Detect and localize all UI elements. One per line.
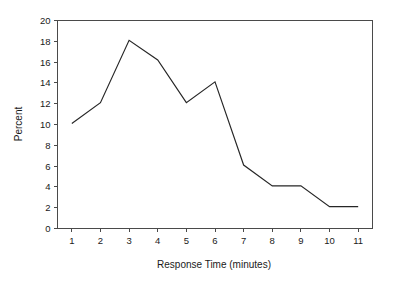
x-tick-label: 7 [241, 235, 246, 246]
y-tick-label: 18 [40, 36, 51, 47]
x-tick-label: 3 [126, 235, 131, 246]
x-tick-label: 1 [69, 235, 74, 246]
x-tick-label: 8 [270, 235, 275, 246]
y-tick-label: 12 [40, 98, 51, 109]
x-tick-label: 10 [324, 235, 335, 246]
y-tick-label: 14 [40, 77, 51, 88]
y-tick-label: 2 [45, 202, 50, 213]
chart-canvas: 02468101214161820 1234567891011 Percent … [0, 0, 393, 281]
x-tick-label: 11 [353, 235, 363, 246]
x-tick-label: 4 [155, 235, 160, 246]
y-tick-label: 10 [40, 119, 51, 130]
x-tick-label: 6 [212, 235, 217, 246]
y-tick-label: 0 [45, 223, 50, 234]
x-axis-title: Response Time (minutes) [157, 259, 271, 270]
x-tick-label: 5 [184, 235, 189, 246]
y-tick-label: 4 [45, 181, 50, 192]
x-tick-label: 9 [298, 235, 303, 246]
x-tick-label: 2 [98, 235, 103, 246]
y-tick-label: 8 [45, 140, 50, 151]
y-axis-title: Percent [13, 107, 24, 142]
line-chart: 02468101214161820 1234567891011 Percent … [0, 0, 393, 281]
y-tick-label: 16 [40, 57, 51, 68]
y-tick-label: 6 [45, 161, 50, 172]
y-tick-label: 20 [40, 15, 51, 26]
